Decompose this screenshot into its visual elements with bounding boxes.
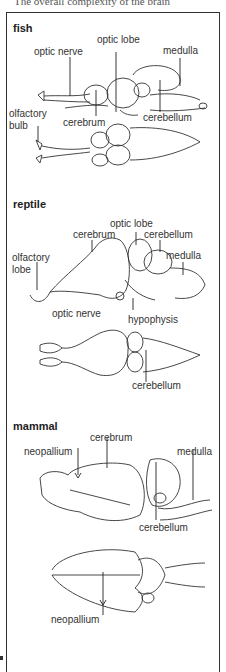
label-medulla-fish: medulla: [163, 45, 198, 56]
fish-dorsal-view: [36, 124, 200, 166]
label-optic-lobe-reptile: optic lobe: [110, 218, 153, 229]
label-cerebrum-mammal: cerebrum: [90, 432, 132, 443]
label-cerebrum-fish: cerebrum: [63, 117, 105, 128]
reptile-dorsal-view: [40, 330, 200, 375]
label-olfactory-fish: olfactory: [9, 108, 47, 119]
mammal-side-view: [40, 459, 212, 521]
label-optic-lobe-fish: optic lobe: [97, 34, 140, 45]
corner-mark: [0, 656, 3, 660]
label-hypophysis-reptile: hypophysis: [128, 314, 178, 325]
label-cerebellum-fish: cerebellum: [143, 112, 192, 123]
label-lobe-reptile: lobe: [12, 264, 31, 275]
label-olfactory-reptile: olfactory: [12, 252, 50, 263]
label-cerebellum-reptile: cerebellum: [144, 229, 193, 240]
label-medulla-reptile: medulla: [166, 250, 201, 261]
label-cerebrum-reptile: cerebrum: [73, 229, 115, 240]
fish-side-view: [38, 66, 207, 116]
label-neopallium-mammal-dorsal: neopallium: [51, 614, 99, 625]
label-cerebellum-reptile-dorsal: cerebellum: [132, 380, 181, 391]
label-optic-nerve-reptile: optic nerve: [52, 308, 101, 319]
label-neopallium-mammal-side: neopallium: [24, 446, 72, 457]
section-title-mammal: mammal: [13, 420, 58, 432]
label-bulb-fish: bulb: [9, 120, 28, 131]
mammal-dorsal-view: [52, 550, 205, 612]
label-medulla-mammal: medulla: [177, 446, 212, 457]
label-optic-nerve-fish: optic nerve: [34, 46, 83, 57]
section-title-fish: fish: [13, 22, 33, 34]
section-title-reptile: reptile: [13, 198, 46, 210]
reptile-side-view: [30, 238, 205, 301]
label-cerebellum-mammal: cerebellum: [139, 522, 188, 533]
